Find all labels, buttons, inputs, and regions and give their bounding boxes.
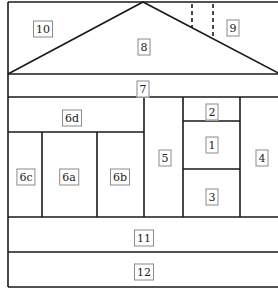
region-label-6b: 6b bbox=[110, 169, 130, 186]
region-label-4: 4 bbox=[256, 150, 269, 167]
region-label-3: 3 bbox=[206, 189, 219, 206]
region-label-2: 2 bbox=[206, 104, 219, 121]
region-label-5: 5 bbox=[159, 150, 172, 167]
region-label-6d: 6d bbox=[62, 110, 82, 127]
region-label-6a: 6a bbox=[59, 169, 79, 186]
region-label-1: 1 bbox=[206, 137, 219, 154]
region-label-10: 10 bbox=[33, 21, 53, 38]
region-label-6c: 6c bbox=[16, 169, 35, 186]
region-label-12: 12 bbox=[134, 264, 154, 281]
region-label-11: 11 bbox=[134, 230, 154, 247]
region-label-8: 8 bbox=[138, 39, 151, 56]
region-label-9: 9 bbox=[227, 20, 240, 37]
region-label-7: 7 bbox=[137, 81, 150, 98]
